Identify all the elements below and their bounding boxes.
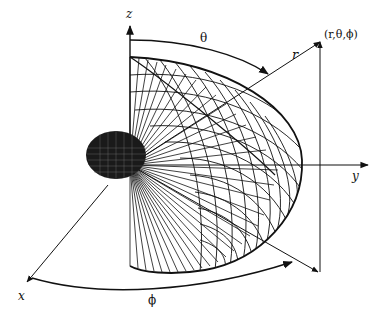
phi-label: ϕ	[148, 294, 156, 306]
point-label: (r,θ,ϕ)	[324, 29, 358, 40]
diagram-canvas: z y x θ ϕ r (r,θ,ϕ)	[0, 0, 382, 312]
main-lobe-mesh	[130, 58, 303, 276]
theta-label: θ	[200, 32, 207, 44]
y-axis-label: y	[352, 170, 359, 182]
x-axis	[27, 185, 108, 282]
phi-arc	[32, 262, 292, 290]
back-lobe	[86, 131, 146, 179]
spherical-plot	[0, 0, 382, 312]
r-label: r	[292, 48, 298, 61]
z-axis-label: z	[126, 8, 132, 20]
x-axis-label: x	[18, 290, 25, 302]
